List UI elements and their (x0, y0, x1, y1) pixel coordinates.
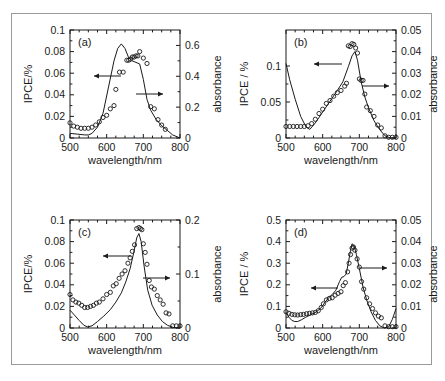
y-tick-label-right: 0.01 (401, 300, 422, 312)
x-tick-label: 600 (314, 141, 332, 153)
absorbance-axis-pointer-arrow (362, 83, 389, 88)
ipce-data-point (370, 306, 374, 310)
y-tick-label-left: 0.04 (45, 88, 66, 100)
x-tick-label: 700 (351, 141, 369, 153)
y-tick-label-left: 0.2 (266, 278, 281, 290)
ipce-data-point (80, 303, 84, 307)
x-tick-label: 600 (98, 141, 116, 153)
ipce-data-point (114, 87, 118, 91)
ipce-data-point (108, 107, 112, 111)
ipce-data-point (105, 113, 109, 117)
y-axis-title-left: IPCE/% (22, 65, 34, 104)
x-tick-label: 700 (351, 331, 369, 343)
figure-outer-frame: 50060070080000.020.040.060.080.100.20.40… (11, 13, 432, 365)
x-tick-label: 700 (135, 141, 153, 153)
y-tick-label-right: 0.6 (185, 39, 200, 51)
ipce-data-point (152, 107, 156, 111)
y-tick-label-right: 0.2 (185, 101, 200, 113)
figure-root: 50060070080000.020.040.060.080.100.20.40… (0, 0, 445, 381)
ipce-marker-group (68, 50, 168, 132)
ipce-data-point (126, 261, 130, 265)
panel-c-plot: 50060070080000.020.040.060.080.100.10.2w… (18, 206, 228, 381)
x-axis-title: wavelength/nm (303, 344, 378, 356)
y-tick-label-left: 0 (59, 322, 65, 334)
ipce-data-point (138, 50, 142, 54)
ipce-data-point (343, 281, 347, 285)
ipce-data-point (108, 290, 112, 294)
y-tick-label-left: 0.1 (266, 60, 281, 72)
panel-letter-label: (b) (294, 36, 307, 48)
y-tick-label-right: 0.04 (401, 45, 422, 57)
ipce-data-point (112, 104, 116, 108)
absorbance-axis-pointer-arrow (360, 265, 387, 270)
y-tick-label-right: 0 (401, 322, 407, 334)
panel-letter-label: (c) (78, 226, 91, 238)
ipce-data-point (111, 284, 115, 288)
absorbance-axis-pointer-arrow (136, 91, 163, 96)
panel-d: 50060070080000.10.20.30.40.500.010.020.0… (234, 206, 444, 381)
y-axis-title-right: absorbance (427, 245, 439, 303)
panel-b: 50060070080000.050.100.010.020.030.040.0… (234, 16, 444, 192)
ipce-data-point (158, 298, 162, 302)
y-tick-label-right: 0.4 (185, 70, 200, 82)
y-tick-label-left: 0.5 (266, 214, 281, 226)
y-tick-label-left: 0.4 (266, 235, 281, 247)
y-tick-label-right: 0 (185, 132, 191, 144)
y-tick-label-right: 0.03 (401, 67, 422, 79)
x-axis-title: wavelength/nm (87, 344, 162, 356)
y-tick-label-left: 0.3 (266, 257, 281, 269)
y-tick-label-left: 0.06 (45, 67, 66, 79)
y-tick-label-right: 0.05 (401, 24, 422, 36)
y-tick-label-left: 0.1 (50, 24, 65, 36)
ipce-data-point (123, 269, 127, 273)
absorbance-curve (70, 234, 180, 329)
y-tick-label-right: 0.2 (185, 214, 200, 226)
y-tick-label-left: 0.1 (50, 214, 65, 226)
y-tick-label-right: 0.1 (185, 268, 200, 280)
panel-c: 50060070080000.020.040.060.080.100.10.2w… (18, 206, 228, 381)
panel-a-plot: 50060070080000.020.040.060.080.100.20.40… (18, 16, 228, 192)
ipce-marker-group (284, 42, 398, 140)
ipce-axis-pointer-arrow (311, 285, 338, 290)
ipce-axis-pointer-arrow (314, 61, 342, 66)
y-axis-title-left: IPCE / % (238, 61, 250, 106)
ipce-data-point (101, 297, 105, 301)
panel-letter-label: (d) (294, 226, 307, 238)
y-tick-label-left: 0.08 (45, 235, 66, 247)
ipce-data-point (145, 262, 149, 266)
x-tick-label: 700 (135, 331, 153, 343)
y-tick-label-left: 0.1 (266, 300, 281, 312)
y-tick-label-left: 0 (59, 132, 65, 144)
x-tick-label: 600 (314, 331, 332, 343)
ipce-data-point (161, 302, 165, 306)
ipce-axis-pointer-arrow (94, 73, 121, 78)
y-tick-label-left: 0 (275, 132, 281, 144)
y-tick-label-left: 0.08 (45, 45, 66, 57)
y-tick-label-right: 0.02 (401, 278, 422, 290)
panel-a: 50060070080000.020.040.060.080.100.20.40… (18, 16, 228, 192)
y-tick-label-left: 0.06 (45, 257, 66, 269)
y-axis-title-right: absorbance (211, 245, 223, 303)
y-tick-label-right: 0.01 (401, 110, 422, 122)
panel-d-plot: 50060070080000.10.20.30.40.500.010.020.0… (234, 206, 444, 381)
ipce-data-point (149, 285, 153, 289)
ipce-data-point (152, 287, 156, 291)
ipce-marker-group (284, 245, 398, 329)
y-tick-label-left: 0.05 (261, 96, 282, 108)
x-axis-title: wavelength/nm (303, 154, 378, 166)
y-tick-label-right: 0 (401, 132, 407, 144)
y-axis-title-left: IPCE/% (22, 255, 34, 294)
ipce-data-point (155, 294, 159, 298)
ipce-marker-group (68, 225, 182, 327)
x-tick-label: 600 (98, 331, 116, 343)
y-tick-label-right: 0.03 (401, 257, 422, 269)
panel-b-plot: 50060070080000.050.100.010.020.030.040.0… (234, 16, 444, 192)
ipce-data-point (117, 276, 121, 280)
y-axis-title-right: absorbance (211, 55, 223, 113)
panel-letter-label: (a) (78, 36, 91, 48)
y-tick-label-right: 0.05 (401, 214, 422, 226)
ipce-data-point (114, 282, 118, 286)
ipce-data-point (354, 46, 358, 50)
y-axis-title-right: absorbance (427, 55, 439, 113)
x-axis-title: wavelength/nm (87, 154, 162, 166)
